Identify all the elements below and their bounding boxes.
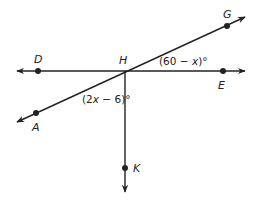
label-D: D <box>34 53 42 66</box>
label-H: H <box>119 54 127 67</box>
geometry-diagram: D H E G A K (60 − x)° (2x − 6)° <box>0 0 258 206</box>
label-K: K <box>133 162 141 175</box>
label-A: A <box>31 121 40 134</box>
label-E: E <box>218 79 225 92</box>
point-D <box>35 68 41 74</box>
point-K <box>122 165 128 171</box>
point-G <box>224 23 230 29</box>
label-G: G <box>223 8 232 21</box>
point-E <box>220 68 226 74</box>
point-A <box>33 110 39 116</box>
angle-label-AHK: (2x − 6)° <box>82 93 131 105</box>
angle-label-GHE: (60 − x)° <box>159 55 208 67</box>
line-AG <box>17 17 245 122</box>
